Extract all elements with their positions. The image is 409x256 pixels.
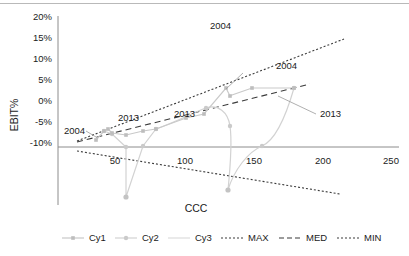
legend-item-cy3[interactable]: Cy3	[168, 232, 212, 243]
legend-item-cy2[interactable]: Cy2	[115, 232, 159, 243]
y-tick-label: 5%	[38, 74, 52, 85]
y-tick-label: 0%	[38, 95, 52, 106]
trend-line-min	[77, 151, 340, 194]
x-axis-title: CCC	[185, 202, 208, 214]
legend-marker-circle	[124, 236, 128, 240]
y-axis-title: EBIT%	[8, 99, 20, 132]
legend-label-cy3: Cy3	[195, 232, 212, 243]
x-tick-label: 100	[177, 155, 193, 166]
legend-label-min: MIN	[364, 232, 382, 243]
x-tick-label: 200	[315, 155, 331, 166]
legend-label-med: MED	[306, 232, 327, 243]
y-tick-label: 10%	[33, 53, 53, 64]
legend-marker-square	[71, 236, 75, 240]
annotation-2004-top: 2004	[210, 20, 231, 31]
legend-label-max: MAX	[248, 232, 269, 243]
trend-line-max	[77, 39, 344, 141]
legend-item-cy1[interactable]: Cy1	[62, 232, 106, 243]
y-tick-label: -10%	[30, 137, 53, 148]
legend-item-med[interactable]: MED	[279, 232, 327, 243]
annotation-2013-mid: 2013	[174, 108, 195, 119]
annotation-2004-right: 2004	[276, 60, 297, 71]
annotation-2013-right: 2013	[320, 108, 341, 119]
x-tick-label: 50	[110, 155, 121, 166]
y-tick-label: 20%	[33, 11, 53, 22]
y-tick-label: -5%	[35, 116, 52, 127]
chart-container: 20% 15% 10% 5% 0% -5% -10% 50 100 150 20…	[0, 0, 409, 256]
chart-legend: Cy1 Cy2 Cy3 MAX MED MIN	[62, 232, 382, 243]
annotation-2004-left: 2004	[64, 125, 85, 136]
legend-item-min[interactable]: MIN	[337, 232, 382, 243]
scatter-plot: 20% 15% 10% 5% 0% -5% -10% 50 100 150 20…	[0, 0, 409, 256]
annotation-2013-left: 2013	[118, 112, 139, 123]
y-tick-label: 15%	[33, 32, 53, 43]
legend-item-max[interactable]: MAX	[221, 232, 269, 243]
annotation-leaders	[86, 73, 316, 137]
x-tick-label: 250	[383, 155, 399, 166]
legend-label-cy1: Cy1	[89, 232, 106, 243]
legend-label-cy2: Cy2	[142, 232, 159, 243]
x-tick-label: 150	[246, 155, 262, 166]
